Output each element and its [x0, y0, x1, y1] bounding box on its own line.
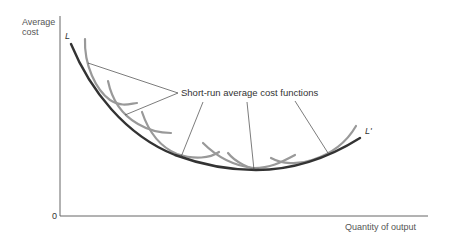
short-run-annotation: Short-run average cost functions [181, 87, 318, 98]
short-run-curve-5 [271, 126, 356, 163]
short-run-curve-2 [108, 81, 171, 133]
origin-label: 0 [52, 211, 57, 221]
short-run-curves [85, 39, 356, 169]
chart-root: Average cost 0 Quantity of output L L' S… [0, 0, 449, 236]
leader-lines [88, 63, 328, 170]
long-run-curve-end-label: L' [365, 126, 372, 136]
long-run-curve [71, 44, 360, 170]
y-axis-label-line1: Average [22, 17, 55, 27]
short-run-curve-3 [142, 112, 219, 158]
short-run-curve-1 [85, 39, 137, 105]
short-run-curve-4 [203, 143, 295, 168]
x-axis-label: Quantity of output [345, 222, 416, 232]
y-axis-label-line2: cost [22, 27, 55, 37]
long-run-curve-start-label: L [65, 31, 70, 41]
y-axis-label: Average cost [22, 17, 55, 37]
